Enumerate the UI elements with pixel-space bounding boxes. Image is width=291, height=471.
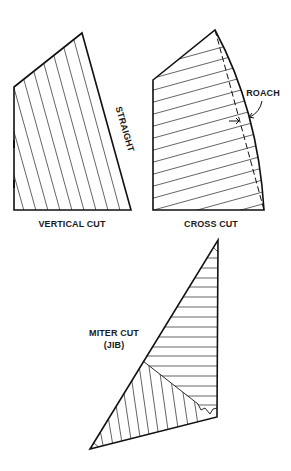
vertical-cut-sail [0, 33, 131, 225]
vertical-cut-panels [0, 40, 124, 225]
miter-cut-sail [90, 240, 230, 460]
roach-label: ROACH [246, 88, 280, 98]
cross-cut-sail [150, 30, 270, 235]
cross-cut-panels [150, 34, 270, 235]
roach-arrow-outer [250, 101, 262, 117]
sail-cuts-diagram: STRAIGHT VERTICAL CUT [0, 0, 291, 471]
miter-cut-label: MITER CUT [89, 328, 139, 338]
jib-label: (JIB) [104, 340, 125, 350]
straight-leech-label: STRAIGHT [114, 105, 137, 153]
miter-seam [143, 361, 217, 414]
cross-cut-label: CROSS CUT [184, 219, 238, 229]
vertical-cut-label: VERTICAL CUT [38, 219, 105, 229]
vertical-cut-outline [14, 33, 131, 210]
miter-upper-panels [120, 246, 230, 405]
straight-leech-dashed-line [215, 30, 264, 210]
miter-lower-panels [90, 352, 200, 460]
